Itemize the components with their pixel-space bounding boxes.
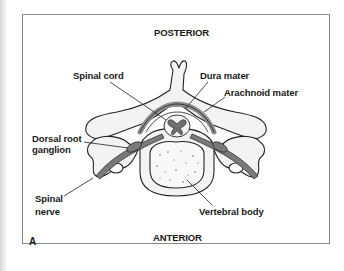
label-vertebral-body: Vertebral body [199, 206, 264, 217]
label-anterior: ANTERIOR [153, 232, 202, 243]
label-dorsal-root-line2: ganglion [32, 144, 71, 155]
label-spinal-cord: Spinal cord [73, 70, 124, 81]
label-spinal-nerve-line2: nerve [35, 206, 60, 217]
panel-letter: A [29, 236, 36, 247]
spinal-cord [164, 115, 190, 137]
label-spinal-nerve-line1: Spinal [35, 193, 63, 204]
label-dura-mater: Dura mater [200, 70, 249, 81]
leader-spinal-nerve [64, 178, 93, 196]
label-arachnoid-mater: Arachnoid mater [224, 87, 298, 98]
label-posterior: POSTERIOR [154, 27, 209, 38]
label-dorsal-root-line1: Dorsal root [32, 133, 82, 144]
